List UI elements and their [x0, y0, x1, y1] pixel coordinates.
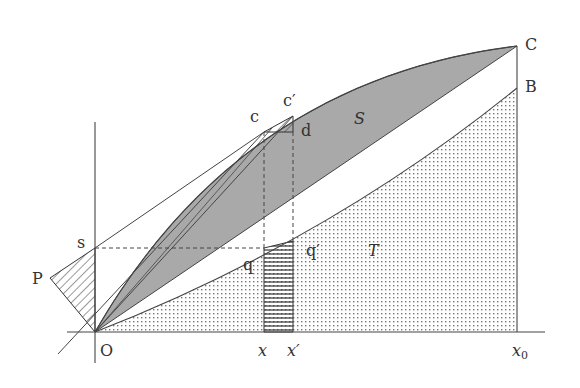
- diagram-canvas: C B c c′ d S T q q′ s P O x x′ x0: [0, 0, 580, 388]
- label-d: d: [301, 121, 311, 140]
- label-x0-sub: 0: [521, 349, 528, 362]
- label-x-prime: x′: [287, 341, 300, 360]
- label-q-prime: q′: [306, 241, 320, 260]
- label-c-prime: c′: [283, 91, 296, 110]
- label-O: O: [100, 341, 113, 360]
- label-S: S: [354, 109, 365, 128]
- label-T: T: [368, 241, 380, 260]
- label-s: s: [77, 233, 85, 252]
- label-c: c: [250, 107, 259, 126]
- label-q: q: [243, 255, 253, 274]
- strip-x-xprime: [264, 241, 293, 332]
- label-B: B: [525, 77, 537, 96]
- label-x0: x0: [512, 341, 528, 362]
- label-x: x: [258, 341, 267, 360]
- triangle-O-s-P: [50, 248, 95, 332]
- label-C: C: [525, 35, 537, 54]
- label-P: P: [32, 269, 43, 288]
